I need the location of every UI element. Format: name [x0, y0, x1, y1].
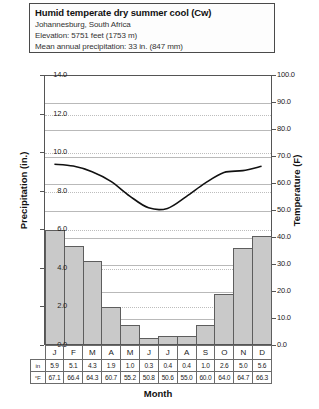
climate-type-title: Humid temperate dry summer cool (Cw): [35, 7, 269, 19]
table-cell-month: N: [234, 346, 253, 360]
y-tick-right: 90.0: [277, 97, 317, 106]
y-tick-left: 14.0: [27, 70, 67, 79]
y-tick-mark-right: [272, 183, 276, 184]
y-tick-mark-left: [40, 75, 44, 76]
y-tick-left: 2.0: [27, 301, 67, 310]
y-tick-right: 40.0: [277, 232, 317, 241]
table-corner-cell: [31, 346, 46, 360]
y-tick-mark-right: [272, 291, 276, 292]
table-cell-precipitation: 0.4: [158, 360, 177, 372]
y-tick-mark-right: [272, 210, 276, 211]
y-tick-right: 60.0: [277, 178, 317, 187]
table-cell-precipitation: 5.0: [234, 360, 253, 372]
table-cell-temperature: 64.0: [215, 372, 234, 384]
table-cell-temperature: 55.0: [177, 372, 196, 384]
y-tick-mark-left: [40, 114, 44, 115]
table-cell-temperature: 60.7: [102, 372, 121, 384]
y-tick-right: 80.0: [277, 124, 317, 133]
y-tick-right: 20.0: [277, 286, 317, 295]
temperature-line: [45, 76, 271, 344]
elevation-text: Elevation: 5751 feet (1753 m): [35, 30, 269, 41]
table-cell-precipitation: 5.6: [253, 360, 272, 372]
table-cell-precipitation: 1.0: [196, 360, 215, 372]
y-tick-mark-left: [40, 229, 44, 230]
table-cell-precipitation: 2.6: [215, 360, 234, 372]
climate-data-table: JFMAMJJASOND in5.95.14.31.91.00.30.40.41…: [30, 345, 272, 384]
table-cell-temperature: 64.7: [234, 372, 253, 384]
table-cell-month: S: [196, 346, 215, 360]
y-tick-right: 100.0: [277, 70, 317, 79]
y-tick-mark-right: [272, 75, 276, 76]
climate-chart-plot: [44, 75, 272, 345]
table-cell-month: J: [139, 346, 158, 360]
table-cell-temperature: 55.2: [121, 372, 140, 384]
y-tick-mark-right: [272, 102, 276, 103]
table-row-precipitation: in5.95.14.31.91.00.30.40.41.02.65.05.6: [31, 360, 272, 372]
y-tick-right: 70.0: [277, 151, 317, 160]
y-tick-mark-left: [40, 191, 44, 192]
table-cell-temperature: 64.3: [83, 372, 102, 384]
table-cell-month: A: [177, 346, 196, 360]
table-cell-month: F: [64, 346, 83, 360]
y-tick-left: 8.0: [27, 186, 67, 195]
y-tick-mark-right: [272, 318, 276, 319]
y-tick-right: 50.0: [277, 205, 317, 214]
table-cell-month: M: [83, 346, 102, 360]
y-tick-mark-right: [272, 345, 276, 346]
y-tick-left: 12.0: [27, 109, 67, 118]
table-cell-precipitation: 0.3: [139, 360, 158, 372]
table-row-label-temperature: °F: [31, 372, 46, 384]
table-cell-temperature: 66.3: [253, 372, 272, 384]
table-cell-month: A: [102, 346, 121, 360]
table-cell-precipitation: 1.9: [102, 360, 121, 372]
table-cell-temperature: 66.4: [64, 372, 83, 384]
table-cell-temperature: 60.0: [196, 372, 215, 384]
y-tick-mark-left: [40, 268, 44, 269]
table-cell-precipitation: 5.9: [45, 360, 64, 372]
y-tick-mark-right: [272, 264, 276, 265]
location-text: Johannesburg, South Africa: [35, 19, 269, 30]
y-tick-mark-right: [272, 156, 276, 157]
table-cell-month: O: [215, 346, 234, 360]
table-row-temperature: °F67.166.464.360.755.250.850.655.060.064…: [31, 372, 272, 384]
y-tick-right: 10.0: [277, 313, 317, 322]
table-cell-month: J: [158, 346, 177, 360]
y-tick-mark-left: [40, 306, 44, 307]
y-tick-left: 10.0: [27, 147, 67, 156]
table-cell-month: J: [45, 346, 64, 360]
table-cell-precipitation: 1.0: [121, 360, 140, 372]
table-cell-month: D: [253, 346, 272, 360]
y-tick-mark-right: [272, 237, 276, 238]
y-tick-left: 4.0: [27, 263, 67, 272]
table-cell-precipitation: 5.1: [64, 360, 83, 372]
table-row-label-precipitation: in: [31, 360, 46, 372]
table-row-months: JFMAMJJASOND: [31, 346, 272, 360]
y-tick-right: 30.0: [277, 259, 317, 268]
y-tick-right: 0.0: [277, 340, 317, 349]
table-cell-temperature: 67.1: [45, 372, 64, 384]
table-cell-precipitation: 0.4: [177, 360, 196, 372]
table-cell-temperature: 50.8: [139, 372, 158, 384]
info-box: Humid temperate dry summer cool (Cw) Joh…: [29, 3, 275, 53]
annual-precipitation-text: Mean annual precipitation: 33 in. (847 m…: [35, 41, 269, 52]
y-tick-left: 6.0: [27, 224, 67, 233]
table-cell-precipitation: 4.3: [83, 360, 102, 372]
x-axis-label-month: Month: [44, 388, 272, 399]
y-tick-mark-left: [40, 152, 44, 153]
table-cell-temperature: 50.6: [158, 372, 177, 384]
table-cell-month: M: [121, 346, 140, 360]
y-tick-mark-right: [272, 129, 276, 130]
